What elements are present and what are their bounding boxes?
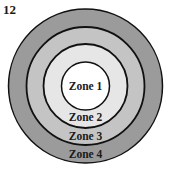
concentric-zones-diagram: Zone 1 Zone 2 Zone 3 Zone 4 bbox=[0, 0, 169, 169]
zone-1-label: Zone 1 bbox=[69, 80, 103, 92]
zone-3-label: Zone 3 bbox=[69, 130, 103, 142]
zone-2-label: Zone 2 bbox=[69, 111, 103, 123]
zone-4-label: Zone 4 bbox=[69, 148, 103, 160]
